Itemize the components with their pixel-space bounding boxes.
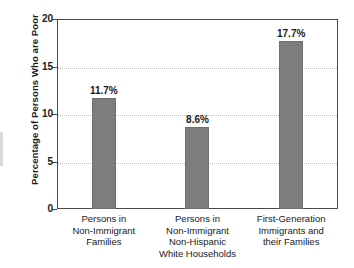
scan-artifact — [0, 132, 3, 166]
bar-slot-2: 8.6% — [151, 19, 245, 209]
x-label-line: Persons in — [57, 213, 151, 225]
y-tick-label-5: 5 — [9, 156, 53, 167]
bar-slot-3: 17.7% — [244, 19, 338, 209]
y-axis-title: Percentage of Persons Who are Poor — [29, 0, 40, 200]
x-label-line: Non-Immigrant — [148, 225, 248, 237]
bar-value-non-immigrant-families: 11.7% — [90, 85, 118, 96]
y-tick-label-0: 0 — [9, 203, 53, 214]
y-tick-label-15: 15 — [9, 61, 53, 72]
bar-value-first-generation-immigrants: 17.7% — [277, 28, 305, 39]
bars-layer: 11.7% 8.6% 17.7% — [57, 19, 338, 209]
x-label-non-hispanic-white-households: Persons in Non-Immigrant Non-Hispanic Wh… — [148, 213, 248, 259]
x-label-line: their Families — [244, 236, 338, 248]
bar-value-non-hispanic-white-households: 8.6% — [186, 114, 209, 125]
bar-non-hispanic-white-households[interactable] — [185, 127, 209, 209]
bar-slot-1: 11.7% — [57, 19, 151, 209]
x-label-line: Non-Immigrant — [57, 225, 151, 237]
x-label-line: Persons in — [148, 213, 248, 225]
x-label-line: Non-Hispanic — [148, 236, 248, 248]
bar-non-immigrant-families[interactable] — [92, 98, 116, 209]
x-label-first-generation-immigrants: First-Generation Immigrants and their Fa… — [244, 213, 338, 248]
x-axis-labels: Persons in Non-Immigrant Families Person… — [57, 213, 338, 268]
x-label-non-immigrant-families: Persons in Non-Immigrant Families — [57, 213, 151, 248]
x-label-line: White Households — [148, 248, 248, 260]
x-label-line: Immigrants and — [244, 225, 338, 237]
x-label-line: Families — [57, 236, 151, 248]
x-label-line: First-Generation — [244, 213, 338, 225]
y-tick-label-20: 20 — [9, 13, 53, 24]
y-tick-label-10: 10 — [9, 108, 53, 119]
bar-chart-figure: Percentage of Persons Who are Poor 20 15… — [0, 0, 354, 268]
bar-first-generation-immigrants[interactable] — [279, 41, 303, 209]
